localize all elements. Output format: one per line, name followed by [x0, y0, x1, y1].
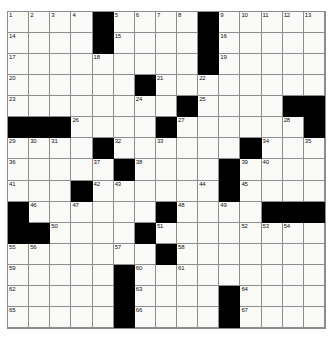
crossword-cell[interactable]	[71, 96, 92, 117]
crossword-cell[interactable]	[50, 307, 71, 328]
crossword-cell[interactable]	[304, 159, 325, 180]
crossword-cell[interactable]	[262, 54, 283, 75]
crossword-cell[interactable]: 8	[177, 12, 198, 33]
crossword-cell[interactable]	[262, 286, 283, 307]
crossword-cell[interactable]	[114, 54, 135, 75]
crossword-cell[interactable]	[135, 181, 156, 202]
crossword-cell[interactable]	[29, 33, 50, 54]
crossword-cell[interactable]	[71, 223, 92, 244]
crossword-cell[interactable]	[93, 202, 114, 223]
crossword-cell[interactable]	[283, 307, 304, 328]
crossword-cell[interactable]	[262, 265, 283, 286]
crossword-cell[interactable]	[177, 159, 198, 180]
crossword-cell[interactable]	[50, 75, 71, 96]
crossword-cell[interactable]	[71, 159, 92, 180]
crossword-cell[interactable]	[29, 75, 50, 96]
crossword-cell[interactable]	[240, 96, 261, 117]
crossword-cell[interactable]: 7	[156, 12, 177, 33]
crossword-cell[interactable]: 4	[71, 12, 92, 33]
crossword-cell[interactable]	[283, 159, 304, 180]
crossword-cell[interactable]	[219, 75, 240, 96]
crossword-cell[interactable]: 66	[135, 307, 156, 328]
crossword-cell[interactable]	[156, 96, 177, 117]
crossword-cell[interactable]	[114, 75, 135, 96]
crossword-cell[interactable]	[156, 286, 177, 307]
crossword-cell[interactable]	[29, 96, 50, 117]
crossword-cell[interactable]: 56	[29, 244, 50, 265]
crossword-cell[interactable]: 61	[177, 265, 198, 286]
crossword-cell[interactable]	[93, 265, 114, 286]
crossword-cell[interactable]	[304, 75, 325, 96]
crossword-cell[interactable]	[262, 33, 283, 54]
crossword-cell[interactable]	[240, 244, 261, 265]
crossword-cell[interactable]	[93, 75, 114, 96]
crossword-cell[interactable]	[198, 202, 219, 223]
crossword-cell[interactable]: 52	[240, 223, 261, 244]
crossword-cell[interactable]	[29, 181, 50, 202]
crossword-cell[interactable]: 26	[71, 117, 92, 138]
crossword-cell[interactable]	[177, 75, 198, 96]
crossword-cell[interactable]	[71, 307, 92, 328]
crossword-cell[interactable]	[29, 159, 50, 180]
crossword-cell[interactable]: 32	[114, 138, 135, 159]
crossword-cell[interactable]	[135, 244, 156, 265]
crossword-cell[interactable]: 50	[50, 223, 71, 244]
crossword-cell[interactable]	[283, 75, 304, 96]
crossword-cell[interactable]: 15	[114, 33, 135, 54]
crossword-cell[interactable]	[304, 223, 325, 244]
crossword-cell[interactable]: 58	[177, 244, 198, 265]
crossword-cell[interactable]: 18	[93, 54, 114, 75]
crossword-cell[interactable]: 48	[177, 202, 198, 223]
crossword-cell[interactable]: 6	[135, 12, 156, 33]
crossword-cell[interactable]: 10	[240, 12, 261, 33]
crossword-cell[interactable]	[198, 307, 219, 328]
crossword-cell[interactable]: 53	[262, 223, 283, 244]
crossword-cell[interactable]	[262, 75, 283, 96]
crossword-cell[interactable]	[219, 117, 240, 138]
crossword-cell[interactable]	[240, 117, 261, 138]
crossword-cell[interactable]	[114, 223, 135, 244]
crossword-cell[interactable]	[114, 202, 135, 223]
crossword-cell[interactable]	[198, 244, 219, 265]
crossword-cell[interactable]	[50, 181, 71, 202]
crossword-cell[interactable]: 11	[262, 12, 283, 33]
crossword-cell[interactable]	[135, 54, 156, 75]
crossword-cell[interactable]: 17	[8, 54, 29, 75]
crossword-cell[interactable]: 33	[156, 138, 177, 159]
crossword-cell[interactable]: 12	[283, 12, 304, 33]
crossword-cell[interactable]: 14	[8, 33, 29, 54]
crossword-cell[interactable]	[219, 138, 240, 159]
crossword-cell[interactable]: 51	[156, 223, 177, 244]
crossword-cell[interactable]	[283, 33, 304, 54]
crossword-cell[interactable]	[304, 307, 325, 328]
crossword-cell[interactable]	[177, 181, 198, 202]
crossword-cell[interactable]	[177, 286, 198, 307]
crossword-cell[interactable]: 24	[135, 96, 156, 117]
crossword-cell[interactable]	[219, 265, 240, 286]
crossword-cell[interactable]: 49	[219, 202, 240, 223]
crossword-cell[interactable]	[240, 265, 261, 286]
crossword-cell[interactable]	[114, 117, 135, 138]
crossword-cell[interactable]: 59	[8, 265, 29, 286]
crossword-cell[interactable]: 36	[8, 159, 29, 180]
crossword-cell[interactable]	[262, 117, 283, 138]
crossword-cell[interactable]: 3	[50, 12, 71, 33]
crossword-cell[interactable]	[156, 33, 177, 54]
crossword-cell[interactable]	[219, 223, 240, 244]
crossword-cell[interactable]: 38	[135, 159, 156, 180]
crossword-cell[interactable]	[304, 54, 325, 75]
crossword-cell[interactable]	[304, 286, 325, 307]
crossword-cell[interactable]	[93, 286, 114, 307]
crossword-cell[interactable]	[93, 307, 114, 328]
crossword-cell[interactable]: 9	[219, 12, 240, 33]
crossword-cell[interactable]	[240, 33, 261, 54]
crossword-cell[interactable]: 16	[219, 33, 240, 54]
crossword-cell[interactable]: 63	[135, 286, 156, 307]
crossword-cell[interactable]	[50, 286, 71, 307]
crossword-cell[interactable]	[283, 265, 304, 286]
crossword-cell[interactable]	[198, 117, 219, 138]
crossword-cell[interactable]	[71, 75, 92, 96]
crossword-cell[interactable]: 43	[114, 181, 135, 202]
crossword-cell[interactable]	[71, 33, 92, 54]
crossword-cell[interactable]: 42	[93, 181, 114, 202]
